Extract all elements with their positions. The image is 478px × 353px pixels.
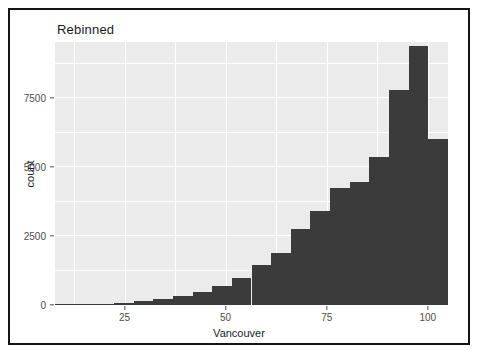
y-tick-mark (50, 304, 54, 305)
x-tick-label: 100 (419, 312, 436, 323)
y-tick-label: 0 (40, 300, 46, 311)
x-tick-mark (326, 306, 327, 310)
x-tick-label: 50 (220, 312, 231, 323)
x-axis-label: Vancouver (10, 327, 468, 339)
x-tick-mark (427, 306, 428, 310)
x-tick-mark (225, 306, 226, 310)
figure-panel: Rebinned 0250050007500 255075100 count V… (8, 8, 470, 345)
x-tick-label: 75 (321, 312, 332, 323)
x-tick-label: 25 (119, 312, 130, 323)
y-axis-label: count (24, 160, 36, 187)
y-tick-label: 7500 (24, 93, 46, 104)
y-tick-mark (50, 166, 54, 167)
y-tick-mark (50, 235, 54, 236)
y-tick-mark (50, 97, 54, 98)
axes-layer: 0250050007500 255075100 (10, 10, 468, 343)
y-tick-label: 2500 (24, 231, 46, 242)
x-tick-mark (124, 306, 125, 310)
